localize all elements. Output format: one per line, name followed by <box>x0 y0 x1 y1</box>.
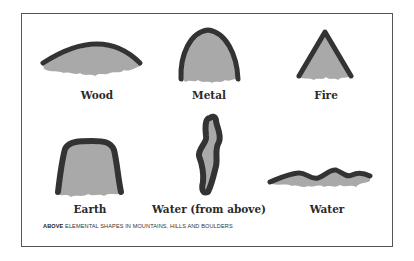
caption-text: ELEMENTAL SHAPES IN MOUNTAINS, HILLS AND… <box>63 223 232 229</box>
figure-caption: ABOVE ELEMENTAL SHAPES IN MOUNTAINS, HIL… <box>43 223 233 229</box>
earth-shape-icon <box>58 141 121 197</box>
fire-shape-icon <box>299 32 351 80</box>
elemental-shapes-illustration <box>0 0 414 261</box>
water-shape-icon <box>270 170 370 187</box>
water-from-above-label: Water (from above) <box>152 203 266 215</box>
metal-label: Metal <box>192 89 226 101</box>
wood-shape-icon <box>43 44 140 76</box>
water-label: Water <box>310 203 345 215</box>
wood-label: Wood <box>81 89 113 101</box>
fire-label: Fire <box>314 89 338 101</box>
earth-label: Earth <box>74 203 107 215</box>
metal-shape-icon <box>181 30 238 83</box>
water-from-above-shape-icon <box>199 117 220 193</box>
caption-lead: ABOVE <box>43 223 63 229</box>
